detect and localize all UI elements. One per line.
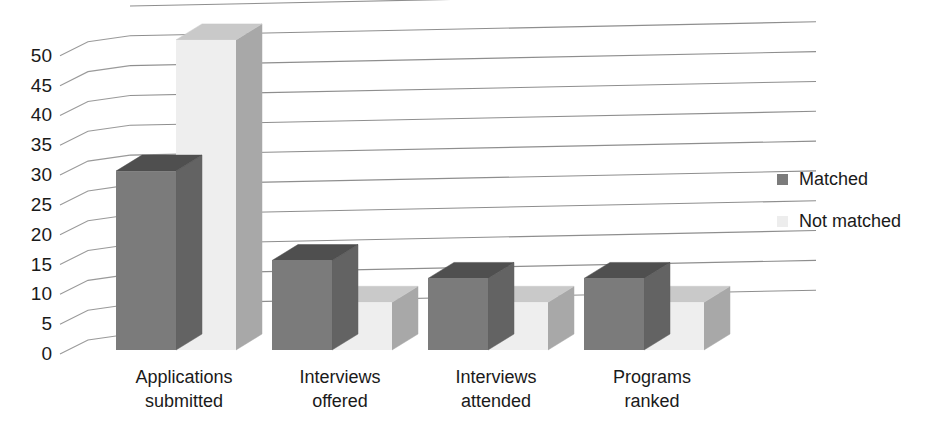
x-axis-category-label: Interviews bbox=[299, 367, 380, 387]
y-axis-tick-label: 25 bbox=[31, 194, 52, 215]
legend-group: MatchedNot matched bbox=[777, 169, 901, 231]
y-axis-tick-labels-group: 05101520253035404550 bbox=[31, 45, 52, 364]
x-axis-category-label: submitted bbox=[145, 391, 223, 411]
legend-label: Not matched bbox=[799, 211, 901, 231]
bar-not-matched-side-face bbox=[236, 24, 262, 350]
y-axis-tick-label: 5 bbox=[41, 313, 52, 334]
bar-matched-front-face bbox=[428, 278, 488, 350]
x-axis-category-label: Programs bbox=[613, 367, 691, 387]
axis-leader-line bbox=[60, 95, 130, 115]
bar-matched-front-face bbox=[272, 261, 332, 350]
bar-matched-front-face bbox=[116, 171, 176, 350]
legend-swatch bbox=[777, 216, 788, 227]
axis-leader-line bbox=[60, 66, 130, 86]
y-axis-tick-label: 35 bbox=[31, 134, 52, 155]
bar-chart-3d: 05101520253035404550 Applicationssubmitt… bbox=[0, 0, 936, 447]
bar-matched bbox=[428, 262, 514, 350]
legend-swatch bbox=[777, 174, 788, 185]
bars-group bbox=[116, 24, 730, 350]
bar-matched-side-face bbox=[332, 245, 358, 350]
y-axis-tick-label: 20 bbox=[31, 224, 52, 245]
x-axis-category-label: Interviews bbox=[455, 367, 536, 387]
y-axis-tick-label: 50 bbox=[31, 45, 52, 66]
x-axis-category-label: ranked bbox=[624, 391, 679, 411]
y-axis-tick-label: 10 bbox=[31, 283, 52, 304]
x-axis-category-label: attended bbox=[461, 391, 531, 411]
x-axis-category-label: offered bbox=[312, 391, 368, 411]
x-axis-category-label: Applications bbox=[135, 367, 232, 387]
gridline bbox=[130, 0, 816, 6]
axis-leader-line bbox=[60, 36, 130, 56]
bar-matched bbox=[116, 155, 202, 350]
y-axis-tick-label: 0 bbox=[41, 343, 52, 364]
bar-matched-side-face bbox=[176, 155, 202, 350]
y-axis-tick-label: 30 bbox=[31, 164, 52, 185]
bar-matched bbox=[584, 262, 670, 350]
y-axis-tick-label: 45 bbox=[31, 75, 52, 96]
bar-matched bbox=[272, 245, 358, 350]
bar-matched-front-face bbox=[584, 278, 644, 350]
y-axis-tick-label: 40 bbox=[31, 104, 52, 125]
y-axis-tick-label: 15 bbox=[31, 254, 52, 275]
legend-label: Matched bbox=[799, 169, 868, 189]
x-axis-category-labels-group: ApplicationssubmittedInterviewsofferedIn… bbox=[135, 367, 691, 411]
chart-container: 05101520253035404550 Applicationssubmitt… bbox=[0, 0, 936, 447]
axis-leader-line bbox=[60, 125, 130, 145]
